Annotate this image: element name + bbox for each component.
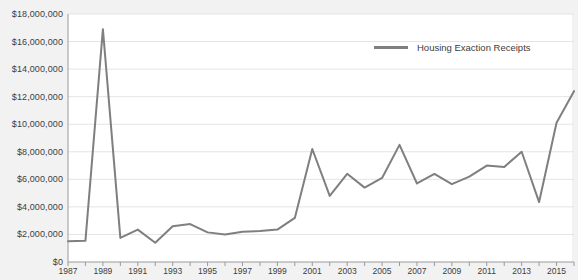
x-tick-label: 1989 [93,266,112,276]
y-tick-label: $4,000,000 [17,202,63,212]
x-tick-label: 1995 [198,266,217,276]
series-line-housing-exaction-receipts [68,29,574,243]
y-tick-label: $6,000,000 [17,174,63,184]
y-tick-label: $18,000,000 [12,9,63,19]
y-tick-label: $14,000,000 [12,64,63,74]
x-tick-label: 1997 [233,266,252,276]
x-tick-label: 1993 [163,266,182,276]
x-tick-label: 2001 [303,266,322,276]
x-tick-label: 1999 [268,266,287,276]
y-tick-label: $10,000,000 [12,119,63,129]
x-tick-label: 2009 [442,266,461,276]
x-tick-label: 2005 [373,266,392,276]
x-tick-label: 2011 [478,266,496,276]
x-tick-label: 1991 [128,266,147,276]
x-tick-label: 2003 [338,266,357,276]
chart-legend: Housing Exaction Receipts [374,42,531,53]
y-tick-label: $12,000,000 [12,92,63,102]
line-chart: $0$2,000,000$4,000,000$6,000,000$8,000,0… [0,0,578,280]
x-tick-label: 2013 [512,266,531,276]
x-tick-label: 1987 [59,266,78,276]
y-tick-label: $8,000,000 [17,147,63,157]
y-tick-label: $16,000,000 [12,37,63,47]
y-axis-labels: $0$2,000,000$4,000,000$6,000,000$8,000,0… [0,0,63,280]
x-tick-label: 2007 [407,266,426,276]
x-tick-label: 2015 [547,266,566,276]
legend-item-label: Housing Exaction Receipts [417,42,531,53]
y-tick-label: $2,000,000 [17,229,63,239]
legend-color-swatch [374,46,408,49]
